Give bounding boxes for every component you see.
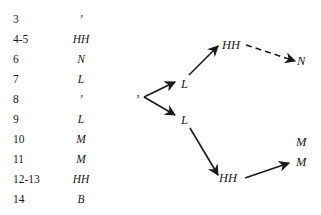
node-upper-hh: HH xyxy=(221,38,241,52)
edge-upper-l-upper-hh xyxy=(189,46,218,75)
edge-lower-hh-lower-m xyxy=(245,163,289,178)
edge-root-upper-l xyxy=(144,82,175,97)
node-lower-m1: M xyxy=(295,135,307,149)
edge-lower-l-lower-hh xyxy=(190,128,218,175)
node-lower-hh: HH xyxy=(218,171,238,185)
edge-root-lower-l xyxy=(144,97,175,115)
tone-diagram: ’ L HH N L HH M M xyxy=(0,0,321,215)
node-upper-n: N xyxy=(296,54,306,68)
node-root: ’ xyxy=(135,92,139,106)
edge-upper-hh-upper-n xyxy=(246,45,295,61)
node-upper-l: L xyxy=(180,77,188,91)
node-lower-l: L xyxy=(180,113,188,127)
node-lower-m2: M xyxy=(295,155,307,169)
